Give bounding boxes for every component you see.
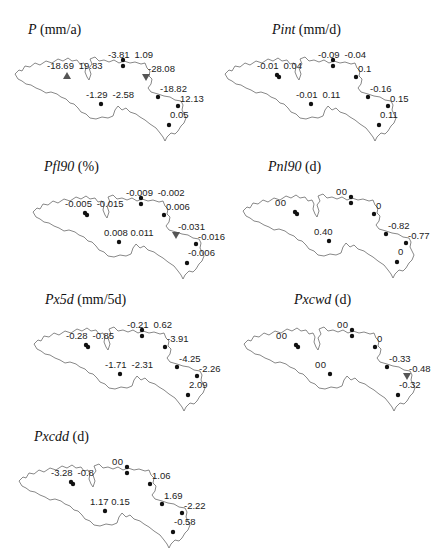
station-value-label: 0.006 bbox=[166, 201, 190, 212]
station-value-label: -0.16 bbox=[370, 83, 392, 94]
variable-name: Px5d bbox=[44, 292, 75, 307]
station-value-label: -0.8 bbox=[78, 467, 94, 478]
station-value-label: 0.008 bbox=[104, 227, 128, 238]
station-value-label: 0.1 bbox=[358, 63, 371, 74]
dot-marker-icon bbox=[186, 393, 190, 397]
dot-marker-icon bbox=[163, 345, 167, 349]
panel-title: P (mm/a) bbox=[27, 22, 82, 38]
station-value-label: 0 bbox=[342, 186, 347, 197]
map-panel-pxcdd: Pxcdd (d)-3.28-0.8001.061.69-2.22-0.581.… bbox=[19, 429, 206, 548]
station: 0 bbox=[373, 333, 382, 349]
station: 00 bbox=[275, 197, 299, 216]
station-value-label: -1.71 bbox=[105, 359, 127, 370]
dot-marker-icon bbox=[148, 482, 152, 486]
dot-marker-icon bbox=[349, 195, 353, 199]
dot-marker-icon bbox=[162, 213, 166, 217]
station-value-label: -4.25 bbox=[179, 353, 201, 364]
station-value-label: 0.05 bbox=[170, 109, 189, 120]
station-value-label: 0.11 bbox=[380, 109, 398, 120]
station-value-label: 0.11 bbox=[323, 89, 341, 100]
station: 0 bbox=[395, 246, 403, 264]
station-value-label: -0.016 bbox=[198, 231, 225, 242]
station-value-label: 0 bbox=[398, 246, 403, 257]
station-value-label: 0 bbox=[376, 200, 381, 211]
map-panel-pfl90: Pfl90 (%)-0.005-0.015-0.009-0.0020.006-0… bbox=[33, 159, 225, 279]
dot-marker-icon bbox=[103, 509, 107, 513]
station-value-label: 1.09 bbox=[135, 49, 154, 60]
dot-marker-icon bbox=[118, 372, 122, 376]
station-value-label: -0.04 bbox=[345, 49, 367, 60]
station: 0.006 bbox=[162, 201, 190, 217]
station: -0.010.11 bbox=[296, 89, 340, 106]
panel-title: Pnl90 (d) bbox=[267, 159, 322, 175]
station: 00 bbox=[276, 330, 300, 349]
station: 0.1 bbox=[354, 63, 371, 79]
unit-label: (mm/a) bbox=[37, 22, 82, 38]
station: 0 bbox=[372, 200, 381, 216]
station-value-label: -2.31 bbox=[132, 359, 154, 370]
station: -3.91 bbox=[163, 333, 189, 349]
station: 0.40 bbox=[314, 226, 333, 243]
station-value-label: 0 bbox=[276, 330, 281, 341]
station-value-label: 0.15 bbox=[390, 93, 409, 104]
station-value-label: 0 bbox=[321, 359, 326, 370]
panel-title: Px5d (mm/5d) bbox=[44, 292, 127, 308]
dot-marker-icon bbox=[328, 372, 332, 376]
station-value-label: -0.28 bbox=[66, 330, 88, 341]
station-value-label: -0.33 bbox=[389, 353, 411, 364]
basin-outline bbox=[244, 327, 415, 411]
unit-label: (mm/d) bbox=[295, 22, 341, 38]
dot-marker-icon bbox=[71, 482, 75, 486]
station-value-label: 1.69 bbox=[164, 490, 183, 501]
map-panel-pint: Pint (mm/d)-0.010.04-0.09-0.040.1-0.160.… bbox=[225, 22, 409, 141]
dot-marker-icon bbox=[195, 374, 199, 378]
dot-marker-icon bbox=[350, 334, 354, 338]
station-value-label: 0 bbox=[337, 319, 342, 330]
dot-marker-icon bbox=[156, 95, 160, 99]
dot-marker-icon bbox=[117, 240, 121, 244]
station: 1.170.15 bbox=[90, 496, 130, 513]
variable-name: Pxcwd bbox=[293, 292, 332, 307]
station-value-label: 12.13 bbox=[180, 93, 204, 104]
station-value-label: -0.48 bbox=[409, 363, 431, 374]
dot-marker-icon bbox=[366, 95, 370, 99]
station: 00 bbox=[337, 319, 354, 338]
map-panel-pnl90: Pnl90 (d)00000-0.82-0.7700.40 bbox=[243, 159, 430, 278]
unit-label: (%) bbox=[74, 159, 99, 175]
unit-label: (d) bbox=[331, 292, 351, 308]
dot-marker-icon bbox=[354, 75, 358, 79]
station-value-label: 1.17 bbox=[90, 496, 109, 507]
dot-marker-icon bbox=[372, 212, 376, 216]
dot-marker-icon bbox=[295, 212, 299, 216]
dot-marker-icon bbox=[139, 202, 143, 206]
station: 0.11 bbox=[377, 109, 398, 127]
dot-marker-icon bbox=[140, 334, 144, 338]
variable-name: Pfl90 bbox=[43, 159, 74, 174]
station: 12.13 bbox=[176, 93, 204, 108]
station-value-label: -0.015 bbox=[97, 198, 124, 209]
dot-marker-icon bbox=[171, 530, 175, 534]
dot-marker-icon bbox=[194, 242, 198, 246]
station-value-label: -0.005 bbox=[65, 198, 92, 209]
station: -3.28-0.8 bbox=[51, 467, 94, 486]
station-value-label: -3.81 bbox=[108, 49, 130, 60]
dot-marker-icon bbox=[121, 64, 125, 68]
dot-marker-icon bbox=[349, 201, 353, 205]
station: 0.15 bbox=[386, 93, 409, 108]
triangle-up-icon bbox=[63, 72, 71, 79]
station: -2.26 bbox=[195, 363, 221, 378]
station-value-label: 0.62 bbox=[154, 319, 173, 330]
station-value-label: 0.15 bbox=[111, 496, 130, 507]
basin-map: -0.28-0.85-0.210.62-3.91-4.25-2.262.09-1… bbox=[34, 319, 221, 411]
station-value-label: -1.29 bbox=[86, 89, 108, 100]
dot-marker-icon bbox=[373, 345, 377, 349]
dot-marker-icon bbox=[350, 328, 354, 332]
station: 00 bbox=[112, 456, 129, 475]
station-value-label: -18.69 bbox=[47, 60, 74, 71]
dot-marker-icon bbox=[404, 241, 408, 245]
station-value-label: 0 bbox=[118, 456, 123, 467]
dot-marker-icon bbox=[175, 365, 179, 369]
panel-title: Pfl90 (%) bbox=[43, 159, 99, 175]
dot-marker-icon bbox=[395, 260, 399, 264]
station: 0.0080.011 bbox=[104, 227, 154, 244]
